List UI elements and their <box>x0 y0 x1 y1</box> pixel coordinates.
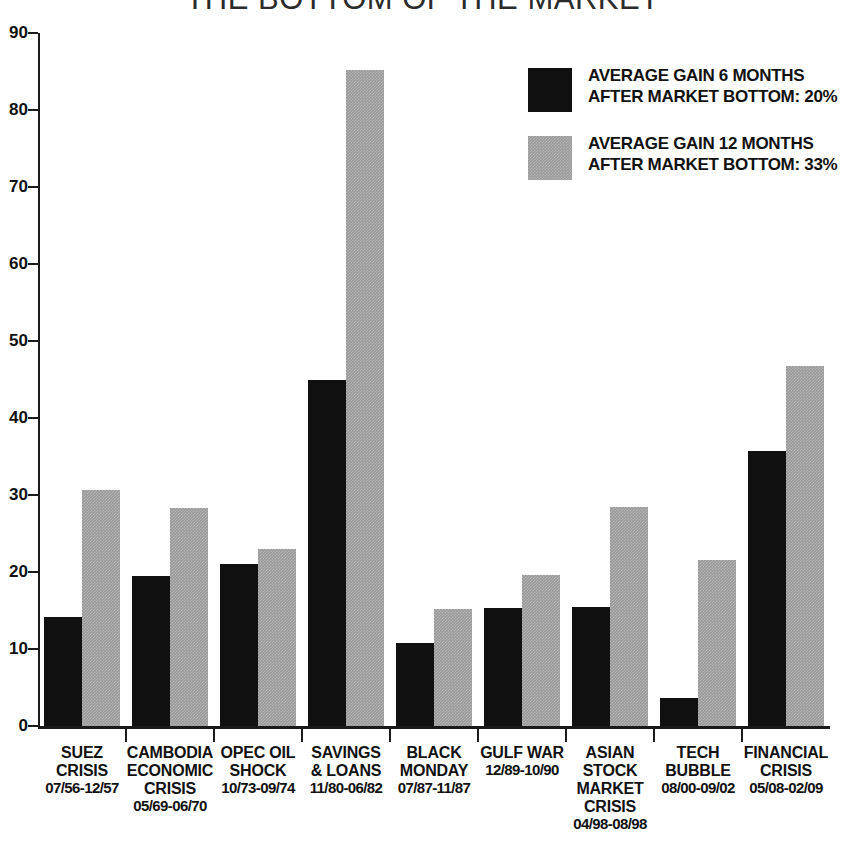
x-axis-label-name: TECH <box>648 744 748 762</box>
y-axis-tick <box>28 417 38 419</box>
bar-6-month <box>484 608 522 726</box>
legend-label-line1: AVERAGE GAIN 6 MONTHS <box>588 66 837 87</box>
legend: AVERAGE GAIN 6 MONTHSAFTER MARKET BOTTOM… <box>528 66 838 202</box>
bar-group <box>220 33 296 726</box>
x-axis-label: SAVINGS& LOANS11/80-06/82 <box>296 744 396 797</box>
legend-swatch-grey <box>528 136 572 180</box>
x-axis-label: FINANCIALCRISIS05/08-02/09 <box>736 744 836 797</box>
y-axis-tick-label: 60 <box>0 255 28 272</box>
legend-item: AVERAGE GAIN 12 MONTHSAFTER MARKET BOTTO… <box>528 134 838 180</box>
x-axis-label-name: CRISIS <box>736 762 836 780</box>
x-axis-label-name: GULF WAR <box>472 744 572 762</box>
y-axis-tick <box>28 186 38 188</box>
bar-12-month <box>786 366 824 726</box>
y-axis-tick <box>28 725 38 727</box>
x-axis-label-name: CRISIS <box>560 798 660 816</box>
x-axis-label: CAMBODIAECONOMICCRISIS05/69-06/70 <box>120 744 220 815</box>
x-axis-label-name: MONDAY <box>384 762 484 780</box>
x-axis-label: ASIANSTOCKMARKETCRISIS04/98-08/98 <box>560 744 660 832</box>
x-axis-label-name: & LOANS <box>296 762 396 780</box>
x-axis-label-name: ASIAN <box>560 744 660 762</box>
y-axis-tick <box>28 263 38 265</box>
x-axis-label-name: CRISIS <box>120 780 220 798</box>
bar-group <box>132 33 208 726</box>
x-axis-tick <box>653 729 655 742</box>
y-axis-tick-label: 10 <box>0 640 28 657</box>
bar-group <box>44 33 120 726</box>
y-axis-tick <box>28 340 38 342</box>
x-axis-label: BLACKMONDAY07/87-11/87 <box>384 744 484 797</box>
x-axis-tick <box>741 729 743 742</box>
x-axis-label-range: 08/00-09/02 <box>648 780 748 797</box>
legend-label-line2: AFTER MARKET BOTTOM: 33% <box>588 155 837 176</box>
legend-label: AVERAGE GAIN 6 MONTHSAFTER MARKET BOTTOM… <box>588 66 837 107</box>
bar-12-month <box>522 575 560 726</box>
y-axis-tick-label: 80 <box>0 101 28 118</box>
y-axis-tick <box>28 494 38 496</box>
bar-12-month <box>610 507 648 726</box>
y-axis-tick <box>28 571 38 573</box>
y-axis-tick <box>28 648 38 650</box>
legend-label-line1: AVERAGE GAIN 12 MONTHS <box>588 134 837 155</box>
x-axis-tick <box>213 729 215 742</box>
x-axis-label: TECHBUBBLE08/00-09/02 <box>648 744 748 797</box>
x-axis-tick <box>125 729 127 742</box>
bar-6-month <box>220 564 258 726</box>
x-axis-label-name: SUEZ <box>32 744 132 762</box>
y-axis-tick-label: 30 <box>0 486 28 503</box>
x-axis-label-range: 07/87-11/87 <box>384 780 484 797</box>
y-axis-tick-label: 0 <box>0 717 28 734</box>
x-axis-tick <box>477 729 479 742</box>
bar-group <box>308 33 384 726</box>
x-axis-label-range: 04/98-08/98 <box>560 816 660 833</box>
x-axis-line <box>38 726 830 729</box>
bar-12-month <box>170 508 208 726</box>
x-axis-label-range: 10/73-09/74 <box>208 780 308 797</box>
x-axis-label-name: OPEC OIL <box>208 744 308 762</box>
bar-6-month <box>44 617 82 726</box>
x-axis-label: OPEC OILSHOCK10/73-09/74 <box>208 744 308 797</box>
x-axis-label-name: ECONOMIC <box>120 762 220 780</box>
x-axis-label-range: 07/56-12/57 <box>32 780 132 797</box>
y-axis-tick <box>28 109 38 111</box>
y-axis-tick-label: 50 <box>0 332 28 349</box>
legend-swatch-black <box>528 68 572 112</box>
y-axis-tick-label: 20 <box>0 563 28 580</box>
x-axis-label: GULF WAR12/89-10/90 <box>472 744 572 779</box>
chart-root: THE BOTTOM OF THE MARKET 010203040506070… <box>0 0 845 857</box>
x-axis-label-name: STOCK <box>560 762 660 780</box>
bar-12-month <box>82 490 120 726</box>
bar-6-month <box>308 380 346 727</box>
x-axis-label-range: 11/80-06/82 <box>296 780 396 797</box>
y-axis-tick-label: 90 <box>0 24 28 41</box>
legend-label: AVERAGE GAIN 12 MONTHSAFTER MARKET BOTTO… <box>588 134 837 175</box>
legend-label-line2: AFTER MARKET BOTTOM: 20% <box>588 87 837 108</box>
x-axis-label-range: 05/69-06/70 <box>120 798 220 815</box>
legend-item: AVERAGE GAIN 6 MONTHSAFTER MARKET BOTTOM… <box>528 66 838 112</box>
x-axis-label-range: 05/08-02/09 <box>736 780 836 797</box>
bar-6-month <box>660 698 698 726</box>
x-axis-label-name: SHOCK <box>208 762 308 780</box>
x-axis-label-name: SAVINGS <box>296 744 396 762</box>
bar-6-month <box>132 576 170 726</box>
page-title: THE BOTTOM OF THE MARKET <box>0 0 845 17</box>
y-axis-tick-label: 40 <box>0 409 28 426</box>
x-axis-label: SUEZCRISIS07/56-12/57 <box>32 744 132 797</box>
x-axis-label-name: MARKET <box>560 780 660 798</box>
bar-12-month <box>346 70 384 726</box>
x-axis-label-name: CAMBODIA <box>120 744 220 762</box>
bar-12-month <box>698 560 736 726</box>
y-axis-tick <box>28 32 38 34</box>
x-axis-tick <box>565 729 567 742</box>
x-axis-tick <box>301 729 303 742</box>
x-axis-tick <box>389 729 391 742</box>
x-axis-labels: SUEZCRISIS07/56-12/57CAMBODIAECONOMICCRI… <box>38 744 830 857</box>
bar-12-month <box>258 549 296 726</box>
x-axis-label-name: CRISIS <box>32 762 132 780</box>
x-axis-label-range: 12/89-10/90 <box>472 762 572 779</box>
bar-12-month <box>434 609 472 726</box>
bar-6-month <box>396 643 434 726</box>
bar-6-month <box>572 607 610 726</box>
bar-6-month <box>748 451 786 726</box>
x-axis-label-name: FINANCIAL <box>736 744 836 762</box>
